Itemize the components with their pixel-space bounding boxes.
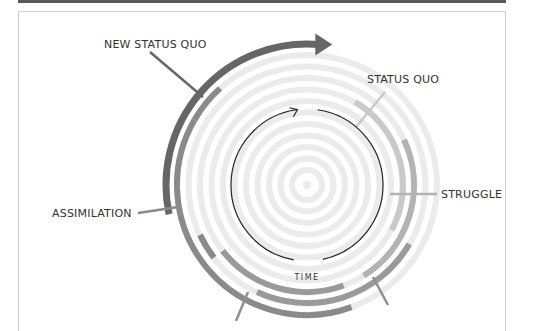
new-status-quo-label: NEW STATUS QUO	[104, 38, 207, 51]
new-status-quo-leader	[150, 52, 203, 97]
struggle-label: STRUGGLE	[441, 188, 502, 201]
arrowhead-icon	[315, 34, 332, 56]
assimilation-label: ASSIMILATION	[52, 207, 132, 220]
status-quo-label: STATUS QUO	[367, 73, 439, 86]
time-label: TIME	[293, 273, 319, 282]
center-dot	[303, 181, 311, 189]
